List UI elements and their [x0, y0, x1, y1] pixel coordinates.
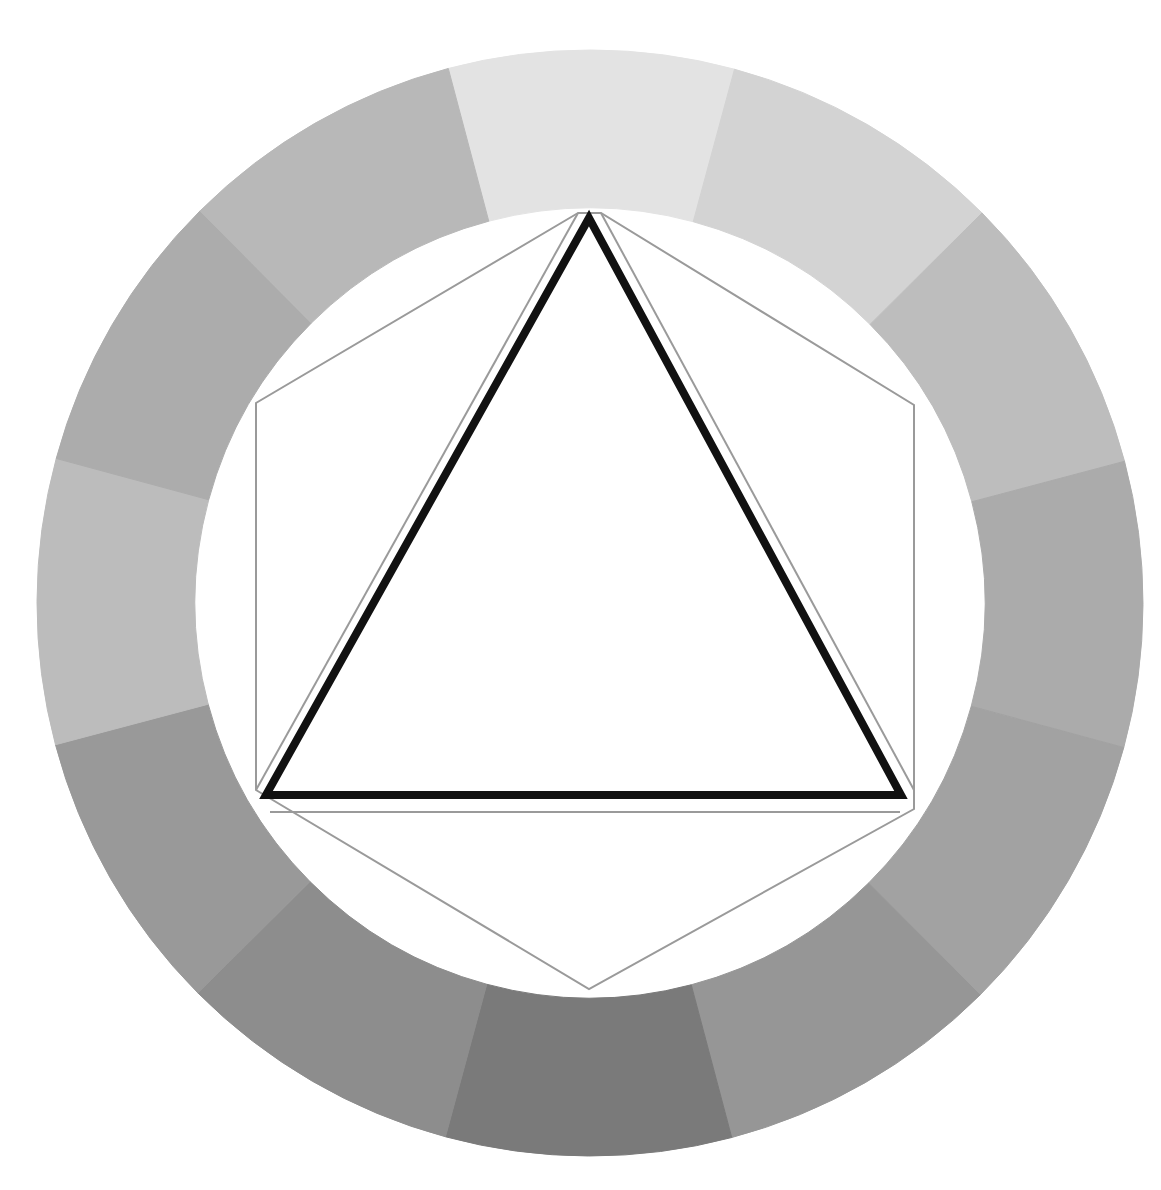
wheel-segment-right — [971, 461, 1143, 747]
wheel-segment-bottom — [445, 984, 731, 1156]
hexagon-outline — [256, 213, 914, 989]
wheel-segment-left-lower — [37, 458, 209, 744]
triad-triangle — [266, 218, 901, 795]
wheel-segment-top — [448, 50, 734, 222]
inner-shapes — [256, 213, 914, 989]
color-wheel — [0, 0, 1161, 1190]
color-wheel-diagram — [0, 0, 1161, 1190]
